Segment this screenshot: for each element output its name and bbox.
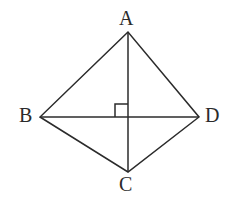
- vertex-label-d: D: [205, 105, 219, 125]
- right-angle-square-icon: [115, 104, 128, 117]
- vertex-label-b: B: [19, 105, 32, 125]
- quadrilateral-outline: [40, 32, 199, 172]
- geometry-figure: A B C D: [0, 0, 243, 204]
- vertex-label-a: A: [119, 8, 133, 28]
- vertex-label-c: C: [119, 174, 132, 194]
